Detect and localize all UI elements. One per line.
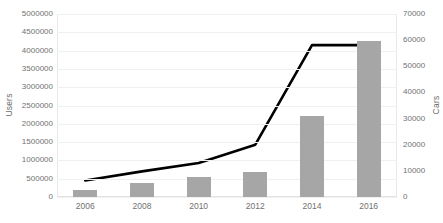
bar bbox=[73, 190, 97, 197]
bar bbox=[300, 116, 324, 197]
y-axis-left-tick-label: 2000000 bbox=[22, 120, 53, 128]
y-axis-right-tick-label: 70000 bbox=[403, 10, 425, 18]
y-axis-right-tick-label: 10000 bbox=[403, 167, 425, 175]
y-axis-right-tick-label: 20000 bbox=[403, 141, 425, 149]
y-axis-left-tick-label: 4000000 bbox=[22, 47, 53, 55]
y-axis-right-tick-label: 0 bbox=[403, 193, 407, 201]
x-axis-tick-label: 2006 bbox=[65, 201, 105, 211]
gridline bbox=[57, 124, 397, 125]
dual-axis-chart: Users Cars 200620082010201220142016 0500… bbox=[0, 0, 443, 223]
y-axis-left-tick-label: 3000000 bbox=[22, 83, 53, 91]
y-axis-right-tick-label: 40000 bbox=[403, 88, 425, 96]
gridline bbox=[57, 87, 397, 88]
x-axis-tick-label: 2014 bbox=[292, 201, 332, 211]
y-axis-right-tick-label: 50000 bbox=[403, 62, 425, 70]
y-axis-left-tick-label: 1000000 bbox=[22, 156, 53, 164]
y-axis-left-tick-label: 0 bbox=[49, 193, 53, 201]
y-axis-left-title: Users bbox=[4, 85, 14, 125]
gridline bbox=[57, 197, 397, 198]
gridline bbox=[57, 69, 397, 70]
y-axis-right-title: Cars bbox=[431, 85, 441, 125]
y-axis-left-tick-label: 500000 bbox=[26, 175, 53, 183]
x-axis-tick-label: 2010 bbox=[179, 201, 219, 211]
y-axis-left-tick-label: 1500000 bbox=[22, 138, 53, 146]
x-axis: 200620082010201220142016 bbox=[57, 201, 397, 217]
bar bbox=[187, 177, 211, 197]
gridline bbox=[57, 14, 397, 15]
y-axis-left-tick-label: 4500000 bbox=[22, 28, 53, 36]
bar bbox=[130, 183, 154, 197]
x-axis-tick-label: 2016 bbox=[349, 201, 389, 211]
gridline bbox=[57, 32, 397, 33]
gridline bbox=[57, 179, 397, 180]
y-axis-left-tick-label: 2500000 bbox=[22, 102, 53, 110]
y-axis-left-tick-label: 5000000 bbox=[22, 10, 53, 18]
gridline bbox=[57, 51, 397, 52]
gridline bbox=[57, 142, 397, 143]
y-axis-right-tick-label: 30000 bbox=[403, 115, 425, 123]
y-axis-left-tick-label: 3500000 bbox=[22, 65, 53, 73]
gridline bbox=[57, 160, 397, 161]
x-axis-tick-label: 2008 bbox=[122, 201, 162, 211]
bar bbox=[357, 41, 381, 197]
gridline bbox=[57, 106, 397, 107]
bar bbox=[243, 172, 267, 197]
x-axis-tick-label: 2012 bbox=[235, 201, 275, 211]
plot-area bbox=[57, 14, 397, 197]
y-axis-right-tick-label: 60000 bbox=[403, 36, 425, 44]
